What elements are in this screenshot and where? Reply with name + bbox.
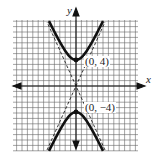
hyperbola-graph: [0, 0, 158, 158]
top-vertex-label: (0, 4): [84, 56, 110, 67]
y-axis-up-arrow-icon: [73, 8, 79, 16]
vertex-point-bottom: [74, 110, 79, 115]
bottom-vertex-label: (0, −4): [84, 102, 116, 113]
x-axis-right-arrow-icon: [137, 83, 145, 89]
y-axis-label: y: [67, 5, 72, 16]
y-axis-down-arrow-icon: [73, 141, 79, 149]
vertex-point-top: [74, 58, 79, 63]
x-axis-label: x: [146, 74, 151, 85]
x-axis-left-arrow-icon: [13, 83, 21, 89]
